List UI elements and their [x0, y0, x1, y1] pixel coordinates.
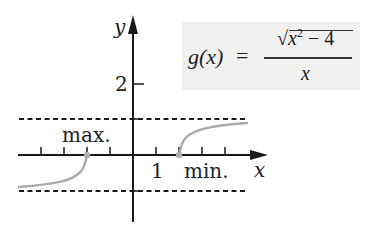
radical-overline	[289, 30, 353, 31]
function-graph: y x 2 1 max. min. g(x) = √x2 − 4 x	[0, 0, 367, 232]
y-tick-label-2: 2	[115, 74, 128, 94]
max-label: max.	[62, 125, 111, 145]
fraction-bar	[264, 57, 352, 59]
curve-right-branch	[179, 123, 247, 155]
max-point	[84, 152, 90, 158]
x-axis-label: x	[254, 160, 265, 180]
min-label: min.	[184, 161, 229, 181]
min-point	[176, 152, 182, 158]
formula: g(x) = √x2 − 4 x	[182, 22, 360, 90]
curve-left-branch	[19, 155, 87, 187]
formula-lhs: g(x)	[188, 44, 223, 70]
x-tick-label-1: 1	[151, 161, 164, 181]
formula-denominator: x	[301, 62, 310, 85]
formula-box: g(x) = √x2 − 4 x	[182, 22, 360, 90]
y-axis-arrow-icon	[128, 15, 138, 34]
y-axis-label: y	[114, 17, 125, 37]
formula-equals: =	[236, 43, 248, 69]
radical-icon: √	[277, 27, 288, 49]
